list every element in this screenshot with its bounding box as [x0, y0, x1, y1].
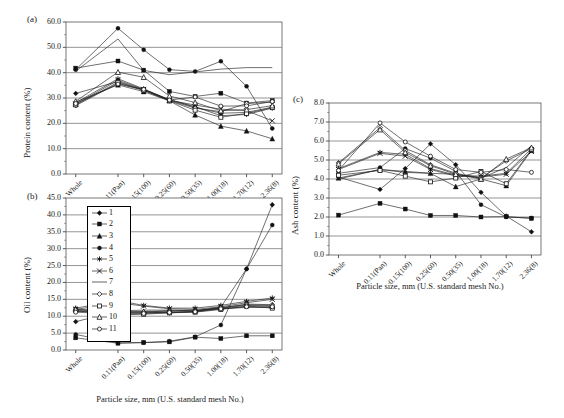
panel-c-plot [285, 85, 564, 375]
legend-item-9[interactable]: 9 [88, 300, 130, 312]
marker-filled-circle [167, 68, 171, 72]
panel-b-x-axis-title: Particle size, mm (U.S. standard mesh No… [45, 394, 295, 404]
open-circle-icon [91, 324, 108, 334]
marker-filled-square [454, 213, 458, 217]
open-square-glyph [98, 304, 102, 308]
marker-open-circle [142, 312, 146, 316]
y-tick-label: 2.0 [295, 212, 324, 221]
marker-filled-circle [504, 215, 508, 219]
legend-label: 7 [109, 278, 113, 286]
marker-filled-circle [193, 335, 197, 339]
marker-filled-square [219, 337, 223, 341]
marker-open-circle [378, 121, 382, 125]
marker-filled-square [428, 213, 432, 217]
marker-filled-circle [116, 26, 120, 30]
y-tick-label: 3.0 [295, 193, 324, 202]
filled-diamond-glyph [97, 210, 102, 215]
y-tick-label: 20.0 [32, 277, 61, 286]
marker-open-circle [167, 311, 171, 315]
marker-open-circle [479, 170, 483, 174]
legend-item-10[interactable]: 10 [88, 311, 130, 323]
open-diamond-glyph [97, 292, 102, 297]
marker-open-circle [454, 168, 458, 172]
marker-filled-circle [167, 339, 171, 343]
marker-open-square [337, 173, 341, 177]
marker-filled-circle [270, 126, 274, 130]
filled-circle-icon [91, 243, 108, 253]
marker-filled-circle [245, 267, 249, 271]
legend-item-1[interactable]: 1 [88, 207, 130, 219]
marker-open-circle [167, 98, 171, 102]
filled-triangle-icon [91, 231, 108, 241]
marker-open-circle [193, 95, 197, 99]
marker-open-square [428, 180, 432, 184]
marker-open-circle [270, 100, 274, 104]
legend-item-2[interactable]: 2 [88, 219, 130, 231]
marker-filled-circle [270, 223, 274, 227]
marker-open-circle [428, 154, 432, 158]
y-tick-label: 5.0 [295, 155, 324, 164]
marker-open-circle [245, 305, 249, 309]
y-tick-label: 15.0 [32, 294, 61, 303]
y-tick-label: 0.0 [32, 169, 61, 178]
marker-open-circle [529, 170, 533, 174]
marker-filled-circle [193, 69, 197, 73]
marker-filled-square [270, 334, 274, 338]
y-tick-label: 40.0 [32, 210, 61, 219]
marker-open-circle [245, 104, 249, 108]
marker-open-circle [116, 82, 120, 86]
y-tick-label: 4.0 [295, 174, 324, 183]
marker-open-circle [337, 168, 341, 172]
marker-filled-circle [74, 332, 78, 336]
legend-label: 3 [109, 232, 113, 240]
y-tick-label: 10.0 [32, 144, 61, 153]
legend-label: 1 [109, 209, 113, 217]
marker-filled-square [116, 59, 120, 63]
legend-item-8[interactable]: 8 [88, 288, 130, 300]
panel-a: (a) Protein content (%) 0.010.020.030.04… [0, 0, 300, 200]
legend-item-6[interactable]: 6 [88, 265, 130, 277]
legend-label: 8 [109, 290, 113, 298]
marker-open-circle [193, 310, 197, 314]
y-tick-label: 1.0 [295, 231, 324, 240]
panel-c: (c) Ash content (%) Particle size, mm (U… [285, 85, 564, 375]
legend-label: 9 [109, 302, 113, 310]
y-tick-label: 0.0 [32, 345, 61, 354]
marker-filled-circle [245, 84, 249, 88]
legend-item-3[interactable]: 3 [88, 230, 130, 242]
marker-filled-square [479, 215, 483, 219]
marker-open-circle [74, 102, 78, 106]
marker-open-circle [270, 305, 274, 309]
y-tick-label: 6.0 [295, 136, 324, 145]
y-tick-label: 30.0 [32, 244, 61, 253]
open-circle-glyph [98, 327, 102, 331]
marker-open-square [378, 168, 382, 172]
legend-item-11[interactable]: 11 [88, 323, 130, 335]
legend-label: 2 [109, 220, 113, 228]
y-tick-label: 45.0 [32, 193, 61, 202]
marker-filled-circle [529, 216, 533, 220]
y-tick-label: 35.0 [32, 227, 61, 236]
marker-open-circle [403, 140, 407, 144]
legend-item-4[interactable]: 4 [88, 242, 130, 254]
filled-square-icon [91, 219, 108, 229]
y-tick-label: 0.0 [295, 250, 324, 259]
marker-filled-square [245, 334, 249, 338]
marker-open-square [504, 182, 508, 186]
marker-filled-square [403, 207, 407, 211]
marker-open-square [193, 108, 197, 112]
marker-open-circle [219, 307, 223, 311]
marker-filled-circle [479, 203, 483, 207]
panel-b-legend: 1234567891011 [87, 206, 131, 342]
legend-label: 4 [109, 244, 113, 252]
open-triangle-icon [91, 312, 108, 322]
legend-item-5[interactable]: 5 [88, 253, 130, 265]
legend-label: 11 [109, 325, 117, 333]
y-tick-label: 10.0 [32, 311, 61, 320]
marker-open-circle [142, 87, 146, 91]
legend-item-7[interactable]: 7 [88, 277, 130, 289]
y-tick-label: 60.0 [32, 17, 61, 26]
legend-label: 5 [109, 255, 113, 263]
legend-label: 6 [109, 267, 113, 275]
legend-label: 10 [109, 313, 117, 321]
